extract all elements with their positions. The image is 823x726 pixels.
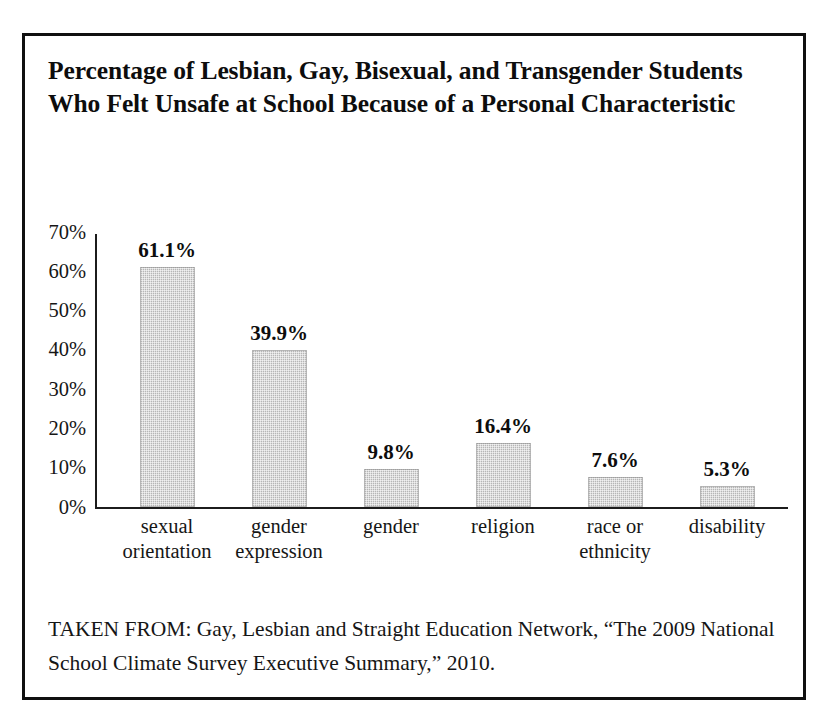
y-axis-tick-60: 60% xyxy=(16,261,86,282)
bar-group: 39.9% xyxy=(223,323,335,507)
y-axis-tick-10: 10% xyxy=(16,457,86,478)
x-axis-label: sexualorientation xyxy=(103,514,231,564)
x-axis-label-line: gender xyxy=(215,514,343,539)
bar xyxy=(252,350,307,507)
y-axis-line xyxy=(95,234,97,509)
bar xyxy=(140,267,195,507)
bar-group: 16.4% xyxy=(447,416,559,507)
figure-container: Percentage of Lesbian, Gay, Bisexual, an… xyxy=(22,33,806,700)
bar-group: 9.8% xyxy=(335,442,447,508)
source-attribution: TAKEN FROM: Gay, Lesbian and Straight Ed… xyxy=(48,612,776,680)
bar xyxy=(364,469,419,508)
y-axis-tick-20: 20% xyxy=(16,418,86,439)
y-axis-tick-40: 40% xyxy=(16,339,86,360)
bar-group: 5.3% xyxy=(671,459,783,507)
x-axis-label: gender xyxy=(327,514,455,539)
x-axis-label-line: expression xyxy=(215,539,343,564)
bar-value-label: 16.4% xyxy=(447,416,559,437)
y-axis-tick-30: 30% xyxy=(16,379,86,400)
bar-value-label: 5.3% xyxy=(671,459,783,480)
bar xyxy=(588,477,643,507)
x-axis-label: disability xyxy=(663,514,791,539)
x-axis-label-line: orientation xyxy=(103,539,231,564)
bar-value-label: 39.9% xyxy=(223,323,335,344)
bar-value-label: 61.1% xyxy=(111,240,223,261)
y-axis-tick-0: 0% xyxy=(16,497,86,518)
x-axis-label: genderexpression xyxy=(215,514,343,564)
x-axis-label-line: sexual xyxy=(103,514,231,539)
x-axis-label-line: gender xyxy=(327,514,455,539)
x-axis-label: race orethnicity xyxy=(551,514,679,564)
x-axis-label-line: religion xyxy=(439,514,567,539)
x-axis-line xyxy=(95,507,788,509)
y-axis-tick-50: 50% xyxy=(16,300,86,321)
y-axis-tick-70: 70% xyxy=(16,222,86,243)
bar-chart-plot: 0%10%20%30%40%50%60%70% 61.1%39.9%9.8%16… xyxy=(95,206,788,509)
bar xyxy=(476,443,531,507)
bar-value-label: 9.8% xyxy=(335,442,447,463)
bar-group: 61.1% xyxy=(111,240,223,507)
bar xyxy=(700,486,755,507)
x-axis-label-line: race or xyxy=(551,514,679,539)
bar-value-label: 7.6% xyxy=(559,450,671,471)
x-axis-label-line: disability xyxy=(663,514,791,539)
x-axis-label: religion xyxy=(439,514,567,539)
figure-title: Percentage of Lesbian, Gay, Bisexual, an… xyxy=(48,54,770,120)
bar-group: 7.6% xyxy=(559,450,671,507)
x-axis-label-line: ethnicity xyxy=(551,539,679,564)
